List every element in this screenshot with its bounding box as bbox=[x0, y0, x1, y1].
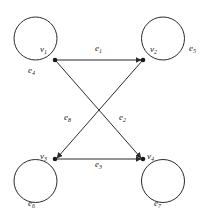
loop-label-e5-sub: 5 bbox=[193, 48, 196, 54]
edge-label-e2: e2 bbox=[119, 113, 126, 122]
vertex-label-v3-sub: 3 bbox=[44, 156, 47, 162]
edge-label-e1-sub: 1 bbox=[99, 48, 102, 54]
vertex-label-v2: v2 bbox=[150, 45, 157, 54]
vertex-label-v4: v4 bbox=[147, 152, 154, 161]
edge-e2 bbox=[56, 61, 141, 158]
graph-canvas bbox=[0, 0, 210, 222]
vertex-dot-v4 bbox=[141, 157, 146, 162]
edge-label-e3-sub: 3 bbox=[99, 164, 102, 170]
edge-label-e2-sub: 2 bbox=[123, 117, 126, 123]
vertex-label-v3: v3 bbox=[40, 152, 47, 161]
edge-label-e8: e8 bbox=[64, 113, 71, 122]
self-loop-e5 bbox=[142, 17, 185, 60]
edge-e8 bbox=[57, 61, 142, 158]
vertex-label-v2-sub: 2 bbox=[154, 49, 157, 55]
edge-label-e3: e3 bbox=[95, 160, 102, 169]
loop-label-e4-sub: 4 bbox=[32, 70, 35, 76]
vertex-dot-v1 bbox=[53, 58, 58, 63]
loop-label-e7-sub: 7 bbox=[158, 203, 161, 209]
vertex-label-v1: v1 bbox=[40, 45, 47, 54]
loop-label-e7: e7 bbox=[154, 199, 161, 208]
vertex-label-v1-sub: 1 bbox=[44, 49, 47, 55]
self-loop-e7 bbox=[142, 160, 185, 203]
loop-label-e5: e5 bbox=[189, 44, 196, 53]
vertex-dot-v3 bbox=[53, 157, 58, 162]
self-loop-e4 bbox=[14, 17, 57, 60]
self-loop-e6 bbox=[14, 160, 57, 203]
loop-label-e6: e6 bbox=[28, 199, 35, 208]
loop-label-e4: e4 bbox=[28, 66, 35, 75]
edge-label-e8-sub: 8 bbox=[68, 117, 71, 123]
edge-label-e1: e1 bbox=[95, 44, 102, 53]
vertex-label-v4-sub: 4 bbox=[151, 156, 154, 162]
graph-diagram: v1 v2 v3 v4 e1 e2 e3 e8 e4 e5 e6 e7 bbox=[0, 0, 210, 222]
loop-label-e6-sub: 6 bbox=[32, 203, 35, 209]
vertex-dot-v2 bbox=[141, 58, 146, 63]
